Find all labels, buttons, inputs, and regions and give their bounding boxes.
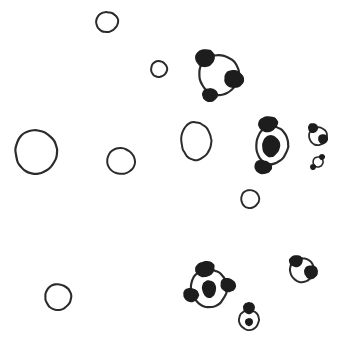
canvas-background (0, 0, 344, 342)
sketch-canvas (0, 0, 344, 342)
sketch-drawing (0, 0, 344, 342)
